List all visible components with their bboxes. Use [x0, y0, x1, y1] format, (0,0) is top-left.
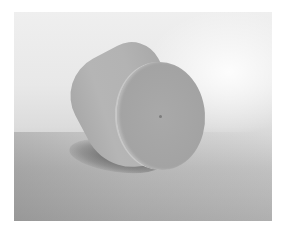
photograph	[14, 12, 272, 221]
face-center-mark	[159, 115, 162, 118]
